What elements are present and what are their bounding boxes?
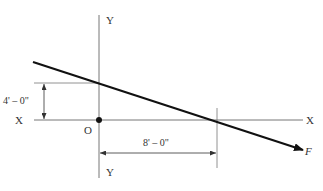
x-axis-label-right: X xyxy=(306,114,314,126)
y-axis-label-top: Y xyxy=(106,14,114,26)
horizontal-dimension-label: 8' – 0" xyxy=(143,137,169,148)
vertical-dimension-label: 4' – 0" xyxy=(3,95,29,106)
y-axis-label-bottom: Y xyxy=(106,166,114,178)
force-label: F xyxy=(304,145,312,157)
origin-label: O xyxy=(84,124,92,136)
x-axis-label-left: X xyxy=(15,114,23,126)
force-diagram: Y Y X X O F 4' – 0" 8' – 0" xyxy=(0,0,323,191)
origin-point xyxy=(96,117,102,123)
